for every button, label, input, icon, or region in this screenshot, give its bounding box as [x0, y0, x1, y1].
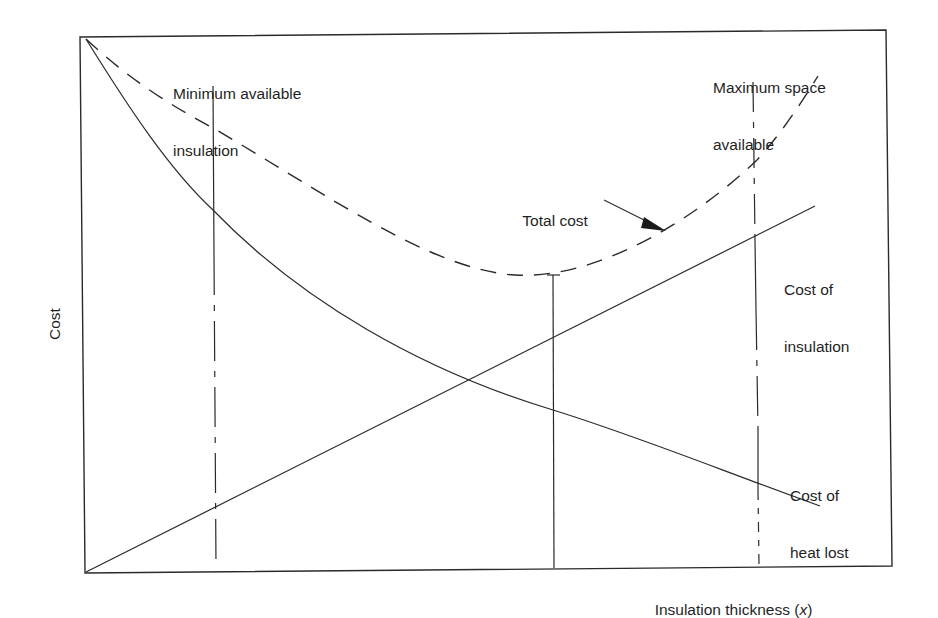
- y-axis-label: Cost: [46, 308, 64, 340]
- max-space-label-line1: Maximum space: [713, 78, 826, 97]
- cost-of-heat-lost-label-line2: heat lost: [790, 543, 849, 562]
- min-insulation-label-line2: insulation: [173, 141, 301, 160]
- total-cost-label: Total cost: [514, 192, 588, 230]
- cost-of-heat-lost-label-line1: Cost of: [790, 486, 849, 505]
- min-insulation-label: Minimum available insulation: [173, 46, 301, 179]
- cost-of-insulation-line: [86, 206, 815, 572]
- max-space-label: Maximum space available: [713, 40, 826, 173]
- total-cost-arrow: [604, 200, 666, 231]
- x-axis-label-var: x: [799, 601, 807, 618]
- x-axis-label: Insulation thickness (x): [646, 581, 812, 618]
- cost-of-insulation-label: Cost of insulation: [784, 242, 850, 375]
- x-axis-label-suffix: ): [807, 601, 812, 618]
- cost-of-insulation-label-line2: insulation: [784, 337, 850, 356]
- optimum-thickness-marker: [547, 275, 560, 568]
- cost-of-insulation-label-line1: Cost of: [784, 280, 850, 299]
- cost-of-heat-lost-label: Cost of heat lost: [790, 448, 849, 581]
- total-cost-label-text: Total cost: [522, 212, 587, 229]
- x-axis-label-prefix: Insulation thickness (: [655, 601, 800, 618]
- min-insulation-label-line1: Minimum available: [173, 84, 301, 103]
- max-space-label-line2: available: [713, 135, 826, 154]
